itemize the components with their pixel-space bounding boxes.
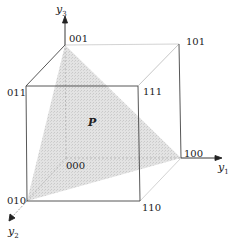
vertex-label-100: 100 bbox=[184, 149, 203, 159]
axis-label-y1: y1 bbox=[218, 162, 229, 176]
axis-label-y3: y3 bbox=[56, 4, 67, 18]
edge-101-111 bbox=[138, 44, 179, 86]
region-label-p: P bbox=[88, 117, 96, 128]
vertex-label-011: 011 bbox=[7, 88, 26, 98]
vertex-label-000: 000 bbox=[66, 161, 85, 171]
vertex-label-110: 110 bbox=[142, 203, 161, 213]
axis-label-y2: y2 bbox=[8, 226, 19, 240]
vertex-label-001: 001 bbox=[69, 34, 88, 44]
vertex-label-010: 010 bbox=[7, 196, 26, 206]
shaded-region-p bbox=[27, 45, 181, 201]
vertex-label-111: 111 bbox=[143, 87, 162, 97]
edge-001-101 bbox=[65, 44, 179, 45]
vertex-label-101: 101 bbox=[186, 37, 205, 47]
